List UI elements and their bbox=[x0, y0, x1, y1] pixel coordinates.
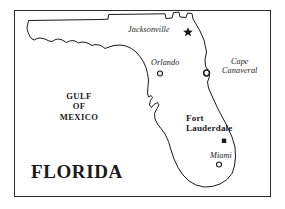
circle-marker-cape-canaveral bbox=[204, 70, 210, 76]
place-label-fort-lauderdale: Fort Lauderdale bbox=[186, 113, 233, 133]
place-label-cape-canaveral: Cape Canaveral bbox=[222, 58, 257, 75]
water-label-gulf-of-mexico: GULF OF MEXICO bbox=[48, 91, 110, 122]
place-label-miami: Miami bbox=[210, 152, 232, 161]
water-label-gulf-line2: OF bbox=[48, 101, 110, 111]
place-label-orlando: Orlando bbox=[151, 59, 179, 68]
florida-map-figure: Jacksonville Orlando Cape Canaveral Fort… bbox=[0, 0, 285, 209]
place-label-fort-lauderdale-line1: Fort bbox=[186, 113, 233, 123]
open-circle-marker-orlando bbox=[158, 71, 163, 76]
place-label-jacksonville: Jacksonville bbox=[128, 26, 170, 35]
place-label-cape-canaveral-line2: Canaveral bbox=[222, 67, 257, 76]
map-title-florida: FLORIDA bbox=[31, 162, 123, 182]
water-label-gulf-line3: MEXICO bbox=[48, 112, 110, 122]
place-label-fort-lauderdale-line2: Lauderdale bbox=[186, 123, 233, 133]
open-circle-marker-miami bbox=[217, 162, 222, 167]
filled-square-marker-fort-lauderdale bbox=[222, 139, 226, 143]
water-label-gulf-line1: GULF bbox=[48, 91, 110, 101]
